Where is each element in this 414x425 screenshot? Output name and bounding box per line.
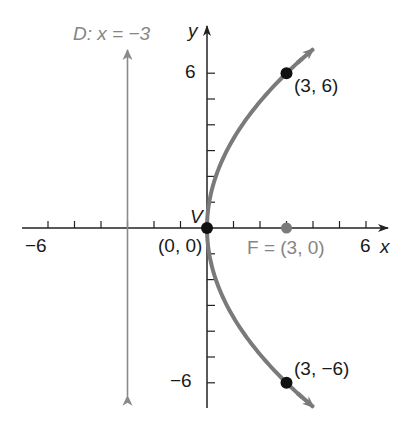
directrix-label: D: x = −3 — [73, 24, 150, 43]
x-tick-label-neg6: −6 — [25, 236, 47, 255]
point-3-neg6 — [281, 377, 293, 389]
vertex-coord-label: (0, 0) — [158, 236, 202, 255]
y-tick-label-6: 6 — [185, 62, 196, 81]
parabola-chart — [0, 0, 414, 425]
focus-label: F = (3, 0) — [247, 238, 325, 257]
x-tick-label-6: 6 — [360, 236, 371, 255]
upper-point-label: (3, 6) — [294, 76, 338, 95]
lower-point-label: (3, −6) — [294, 359, 349, 378]
y-axis-label: y — [188, 21, 198, 40]
y-tick-label-neg6: −6 — [170, 371, 192, 390]
point-3-6 — [281, 67, 293, 79]
x-axis-label: x — [380, 237, 390, 256]
focus-point — [281, 223, 292, 234]
directrix-label-text: D: x = −3 — [73, 23, 150, 44]
vertex-letter-label: V — [190, 207, 203, 226]
